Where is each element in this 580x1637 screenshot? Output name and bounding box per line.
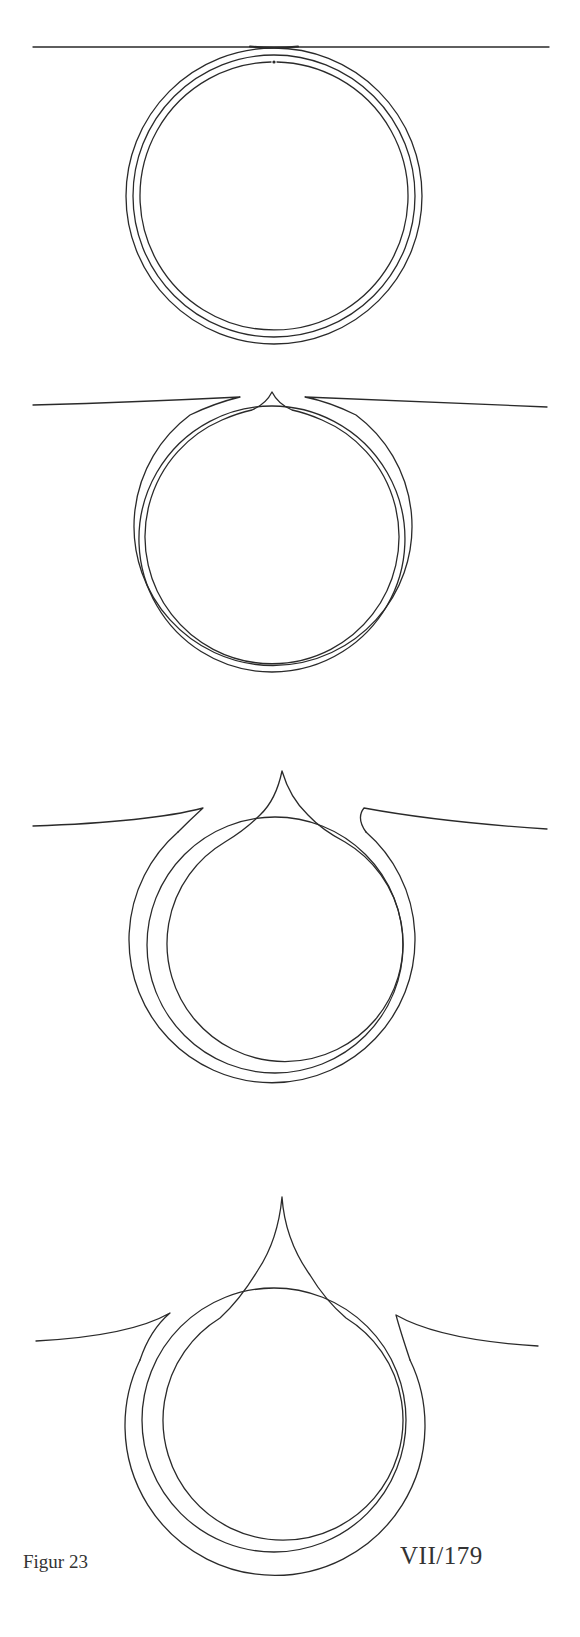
left-line-hook <box>36 1313 170 1360</box>
figure-3 <box>33 771 547 1083</box>
inner-ring-cusp <box>167 771 403 1062</box>
figure-4 <box>36 1197 538 1575</box>
right-line-hook <box>396 1315 538 1360</box>
center-dot <box>272 60 275 63</box>
left-line-outer-ring <box>33 397 547 665</box>
figure-2 <box>33 392 547 672</box>
tangent-thickening <box>250 47 298 48</box>
inner-ring-cusp <box>163 1197 403 1540</box>
figure-label: Figur 23 <box>23 1551 88 1573</box>
middle-ring <box>133 55 415 337</box>
outer-ring <box>126 48 422 344</box>
middle-ring <box>142 1288 406 1552</box>
figure-1 <box>33 47 549 345</box>
inner-ring <box>140 62 408 330</box>
middle-ring <box>147 817 403 1073</box>
inner-ring-cusp <box>145 392 399 664</box>
page-reference: VII/179 <box>400 1542 483 1570</box>
right-line-hook <box>360 808 547 832</box>
figure-drawing <box>0 0 580 1637</box>
outer-ring-open <box>125 1360 425 1575</box>
document-page: Figur 23 VII/179 <box>0 0 580 1637</box>
middle-ring <box>139 406 405 672</box>
left-line-hook <box>33 808 203 832</box>
